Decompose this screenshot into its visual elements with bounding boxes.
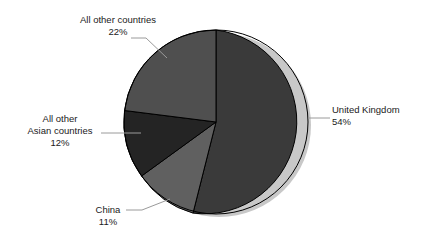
slice-label-all-other-asian-countries-value: 12% [12,137,108,149]
slice-label-all-other-asian-countries-name-line1: All other [12,113,108,125]
leader-line-china [126,199,170,210]
slice-label-all-other-countries-name: All other countries [56,14,180,26]
slice-label-united-kingdom: United Kingdom 54% [332,104,428,128]
pie-slice-all-other-countries[interactable] [125,30,217,122]
slice-label-all-other-countries: All other countries 22% [56,14,180,38]
slice-label-china-value: 11% [84,216,132,228]
pie-chart-figure: All other countries 22% United Kingdom 5… [0,0,431,246]
slice-label-china: China 11% [84,204,132,228]
slice-label-united-kingdom-value: 54% [332,116,428,128]
slice-label-united-kingdom-name: United Kingdom [332,104,428,116]
slice-label-all-other-asian-countries: All other Asian countries 12% [12,113,108,149]
slice-label-all-other-asian-countries-name-line2: Asian countries [12,125,108,137]
slice-label-all-other-countries-value: 22% [56,26,180,38]
slice-label-china-name: China [84,204,132,216]
